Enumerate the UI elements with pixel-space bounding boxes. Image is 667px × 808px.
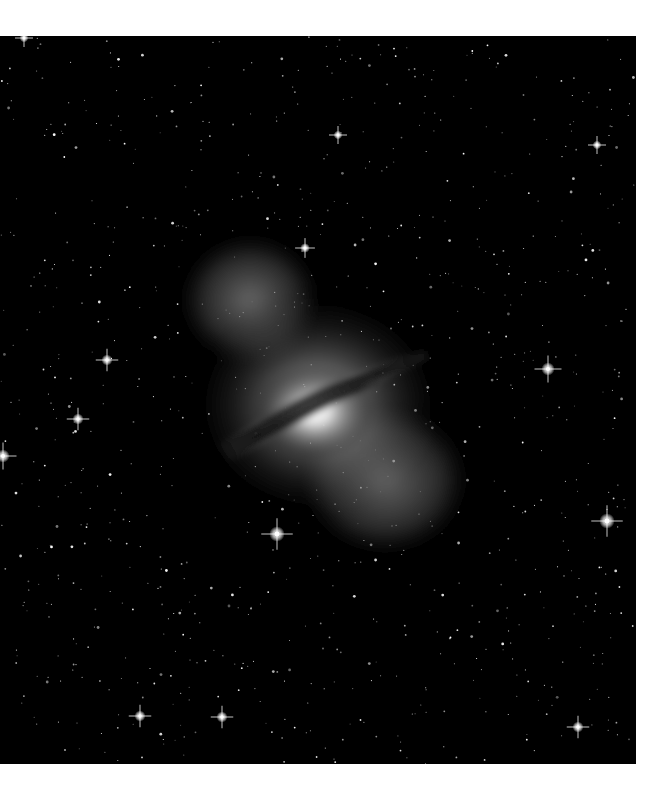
starfield-image: [0, 36, 636, 764]
galaxy-photograph: [0, 36, 636, 764]
